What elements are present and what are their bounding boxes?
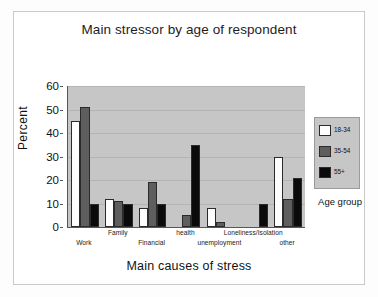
bar-work-35-54: [80, 107, 89, 227]
x-tick-label-financial: Financial: [138, 239, 165, 246]
bar-other-55+: [293, 178, 302, 227]
bar-family-18-34: [105, 199, 114, 227]
y-tick-mark: [60, 110, 63, 111]
bar-family-55+: [123, 204, 132, 228]
legend-title: Age group: [310, 196, 370, 207]
x-tick-label-other: other: [279, 239, 294, 246]
bar-other-18-34: [274, 157, 283, 228]
y-tick-mark: [60, 157, 63, 158]
y-tick-mark: [60, 227, 63, 228]
legend-label-55+: 55+: [334, 168, 345, 175]
bar-work-55+: [90, 204, 99, 228]
y-tick-mark: [60, 86, 63, 87]
x-axis-ticks: WorkFamilyFinancialhealthunemploymentLon…: [67, 227, 304, 255]
x-tick-label-health: health: [176, 229, 194, 236]
plot-area: [67, 86, 305, 228]
y-tick-label-30: 30: [46, 151, 59, 163]
bar-group: [237, 86, 271, 227]
x-tick-label-family: Family: [108, 229, 128, 236]
y-tick-label-40: 40: [46, 127, 59, 139]
legend-label-35-54: 35-54: [334, 147, 350, 154]
bar-family-35-54: [114, 201, 123, 227]
x-axis-title: Main causes of stress: [0, 259, 378, 273]
bar-group: [271, 86, 305, 227]
bar-group: [68, 86, 102, 227]
legend-swatch-35-54: [319, 146, 331, 157]
legend-swatch-55+: [319, 167, 331, 178]
x-tick-label-unemployment: unemployment: [197, 239, 241, 246]
bar-other-35-54: [283, 199, 292, 227]
y-tick-mark: [60, 204, 63, 205]
y-axis-ticks: 0102030405060: [0, 80, 63, 233]
y-tick-mark: [60, 133, 63, 134]
x-tick-label-work: Work: [76, 239, 91, 246]
y-tick-label-10: 10: [46, 198, 59, 210]
bar-group: [170, 86, 204, 227]
y-tick-label-0: 0: [53, 221, 59, 233]
bar-health-35-54: [182, 215, 191, 227]
y-tick-label-50: 50: [46, 104, 59, 116]
bar-unemployment-18-34: [207, 208, 216, 227]
bar-work-18-34: [71, 121, 80, 227]
bar-health-55+: [191, 145, 200, 227]
x-tick-label-loneliness-isolation: Loneliness/Isolation: [224, 229, 283, 236]
bar-financial-55+: [157, 204, 166, 228]
y-tick-label-60: 60: [46, 80, 59, 92]
bar-loneliness-isolation-55+: [259, 204, 268, 228]
chart-figure: Main stressor by age of respondent Perce…: [0, 0, 378, 297]
y-tick-label-20: 20: [46, 174, 59, 186]
bar-group: [136, 86, 170, 227]
bar-financial-35-54: [148, 182, 157, 227]
legend: 18-3435-5455+: [314, 117, 360, 189]
bar-financial-18-34: [139, 208, 148, 227]
y-tick-mark: [60, 180, 63, 181]
bar-group: [102, 86, 136, 227]
legend-swatch-18-34: [319, 125, 331, 136]
legend-label-18-34: 18-34: [334, 126, 350, 133]
bar-group: [203, 86, 237, 227]
chart-title: Main stressor by age of respondent: [0, 22, 378, 37]
